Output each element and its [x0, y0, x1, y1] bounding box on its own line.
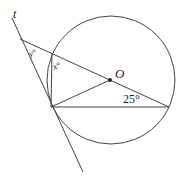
label-center-o: O — [115, 66, 125, 81]
chord-vertical — [51, 53, 52, 107]
secant-through-center — [20, 39, 169, 107]
radius-segment — [51, 80, 110, 107]
label-angle-y: y° — [26, 47, 38, 59]
label-angle-25: 25° — [123, 92, 140, 106]
center-point — [108, 78, 112, 82]
tangent-line-t — [12, 18, 83, 172]
label-t: t — [13, 7, 17, 21]
geometry-diagram: t O y° x° 25° — [0, 0, 183, 178]
